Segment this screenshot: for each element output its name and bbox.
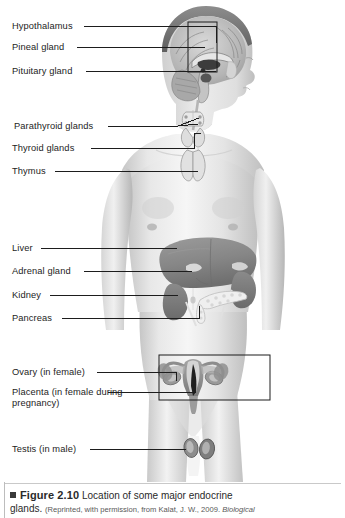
caption-divider: [5, 483, 341, 484]
figure-title-text: Location of some major endocrine: [82, 490, 233, 501]
label-testis-in-male: Testis (in male): [12, 444, 76, 455]
label-pineal-gland: Pineal gland: [12, 42, 64, 53]
label-placenta-in-female: Placenta (in female during pregnancy): [12, 387, 124, 409]
label-thyroid-glands: Thyroid glands: [12, 143, 74, 154]
figure-page: Hypothalamus Pineal gland Pituitary glan…: [0, 0, 345, 518]
label-thymus: Thymus: [12, 166, 46, 177]
figure-credit: (Reprinted, with permission, from Kalat,…: [45, 505, 222, 514]
label-liver: Liver: [12, 243, 33, 254]
label-ovary-in-female: Ovary (in female): [12, 367, 85, 378]
figure-title-line2: glands.: [10, 503, 42, 514]
label-pituitary-gland: Pituitary gland: [12, 66, 72, 77]
figure-caption: Figure 2.10 Location of some major endoc…: [10, 489, 342, 516]
label-hypothalamus: Hypothalamus: [12, 21, 73, 32]
label-parathyroid-glands: Parathyroid glands: [14, 121, 93, 132]
label-pancreas: Pancreas: [12, 313, 52, 324]
figure-credit-source: Biological: [222, 505, 255, 514]
caption-bullet-icon: [10, 492, 16, 498]
label-adrenal-gland: Adrenal gland: [12, 266, 71, 277]
figure-number: Figure 2.10: [20, 489, 79, 501]
label-kidney: Kidney: [12, 290, 41, 301]
